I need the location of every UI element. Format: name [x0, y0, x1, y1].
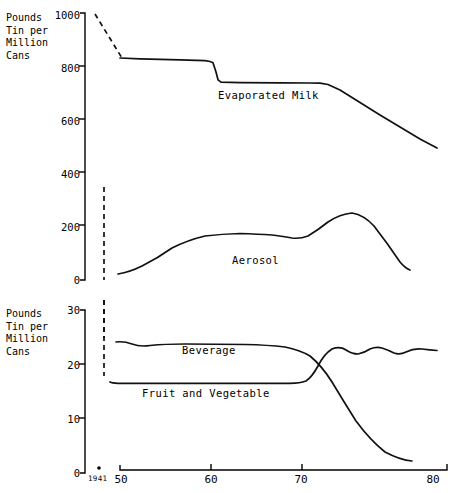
aerosol-line [118, 213, 410, 274]
chart-canvas: Pounds Tin per Million Cans Pounds Tin p… [0, 0, 457, 493]
x-axis [97, 464, 447, 470]
series-fruit-and-vegetable [104, 300, 437, 383]
plot-svg [0, 0, 457, 493]
fruit-vegetable-line [110, 347, 437, 383]
origin-marker-dot [97, 466, 101, 470]
evaporated-milk-dashed-lead [95, 14, 122, 58]
series-aerosol [104, 187, 410, 280]
upper-y-axis [79, 13, 85, 280]
series-beverage [104, 300, 412, 461]
beverage-line [116, 342, 412, 461]
lower-y-axis [79, 310, 85, 473]
evaporated-milk-line [120, 58, 437, 148]
series-evaporated-milk [95, 14, 437, 148]
